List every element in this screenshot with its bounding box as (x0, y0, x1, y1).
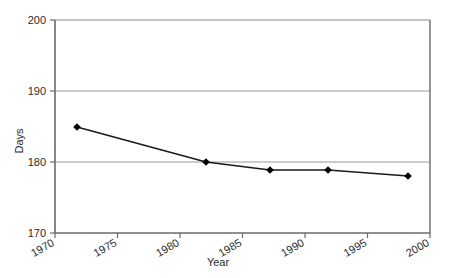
chart-canvas: 200 190 180 170 1970 1975 1980 1985 1990… (0, 0, 453, 278)
x-tick-label-1990: 1990 (279, 236, 306, 259)
x-tick-label-1995: 1995 (341, 236, 368, 259)
plot-area-background (55, 20, 430, 233)
y-tick-label-190: 190 (28, 85, 46, 97)
y-axis-title: Days (13, 128, 25, 154)
line-chart-figure: 200 190 180 170 1970 1975 1980 1985 1990… (0, 0, 453, 278)
y-tick-label-200: 200 (28, 14, 46, 26)
x-tick-label-1975: 1975 (91, 236, 118, 259)
y-tick-label-170: 170 (28, 227, 46, 239)
x-tick-label-2000: 2000 (404, 236, 431, 259)
x-axis-title: Year (207, 256, 230, 268)
x-tick-label-1970: 1970 (29, 236, 56, 259)
x-tick-label-1980: 1980 (154, 236, 181, 259)
y-tick-label-180: 180 (28, 156, 46, 168)
